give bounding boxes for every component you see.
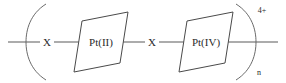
bridging-ligand-label-2: X	[148, 36, 156, 48]
chemical-structure-figure: X Pt(II) X Pt(IV) 4+ n	[0, 0, 286, 83]
repeat-subscript-label: n	[257, 68, 261, 77]
metal-center-label-pt4: Pt(IV)	[192, 36, 220, 49]
structure-canvas: X Pt(II) X Pt(IV) 4+ n	[0, 0, 286, 83]
metal-center-label-pt2: Pt(II)	[89, 36, 113, 49]
bridging-ligand-label-1: X	[43, 36, 51, 48]
repeat-unit-charge-label: 4+	[258, 6, 267, 15]
